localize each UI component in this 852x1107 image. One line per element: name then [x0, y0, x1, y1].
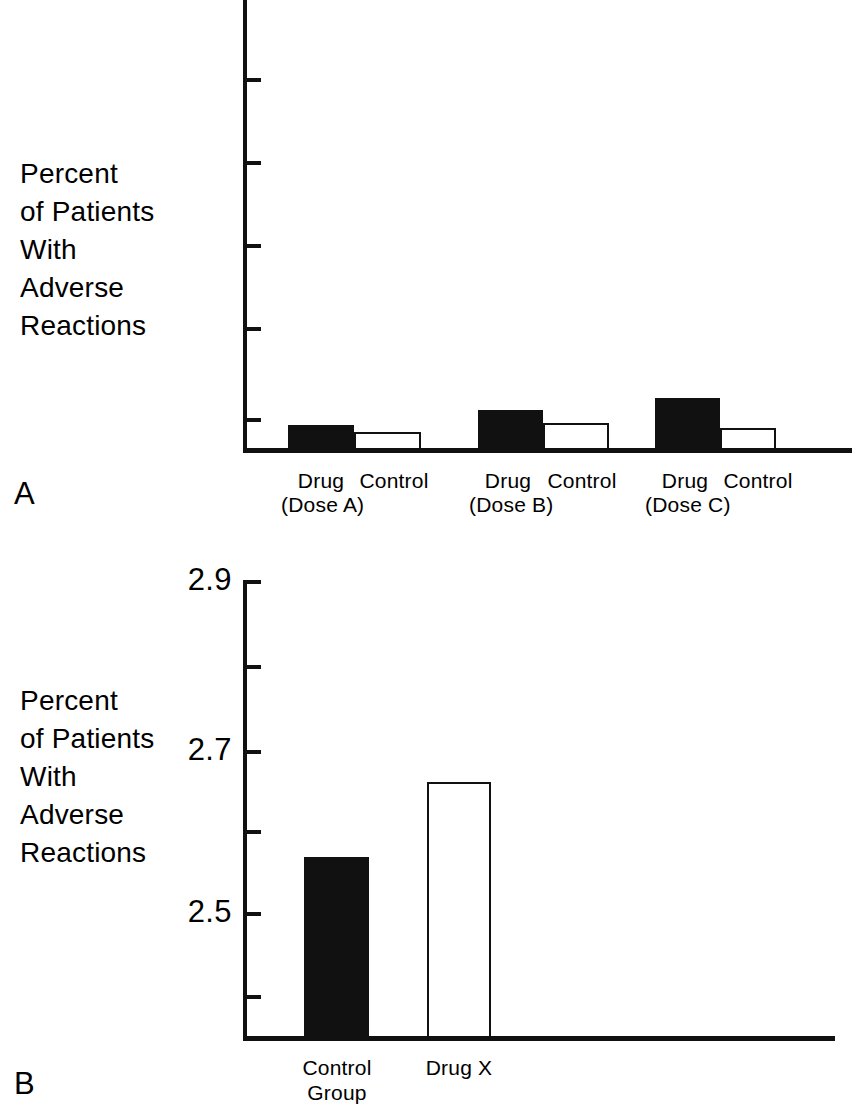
- panel-b-label-control-group: Control Group: [290, 1055, 384, 1105]
- panel-b: Percent of Patients With Adverse Reactio…: [0, 520, 852, 1107]
- panel-a-y-tick-4: [247, 161, 261, 165]
- panel-b-x-axis-line: [243, 1036, 835, 1041]
- panel-a-bar-control-dose-c: [720, 428, 776, 448]
- panel-a-y-tick-1: [247, 418, 261, 422]
- panel-a-y-tick-3: [247, 244, 261, 248]
- panel-b-bar-drug-x: [427, 782, 491, 1036]
- panel-a-letter: A: [14, 478, 35, 509]
- panel-a-label-drug-dose-c: Drug: [650, 468, 720, 493]
- panel-a-label-dose-a: (Dose A): [281, 492, 401, 517]
- panel-a-bar-control-dose-a: [354, 432, 421, 448]
- panel-a-bar-control-dose-b: [543, 423, 609, 448]
- panel-a-y-tick-2: [247, 327, 261, 331]
- panel-a-label-dose-c: (Dose C): [645, 492, 765, 517]
- panel-a-label-drug-dose-a: Drug: [286, 468, 356, 493]
- panel-a-bar-drug-dose-c: [655, 398, 720, 448]
- panel-a-x-axis-line: [243, 448, 852, 453]
- panel-b-y-tick-minor-2-8: [247, 665, 261, 669]
- panel-a-bar-drug-dose-b: [478, 410, 543, 448]
- panel-a-label-drug-dose-b: Drug: [473, 468, 543, 493]
- panel-a-y-axis-label: Percent of Patients With Adverse Reactio…: [20, 155, 220, 345]
- panel-a-y-axis-line: [243, 0, 247, 450]
- figure-root: Percent of Patients With Adverse Reactio…: [0, 0, 852, 1107]
- panel-a-bar-drug-dose-a: [288, 425, 354, 448]
- panel-b-y-tick-label-2-9: 2.9: [150, 564, 232, 595]
- panel-b-label-drug-x: Drug X: [412, 1055, 506, 1080]
- panel-b-y-tick-label-2-7: 2.7: [150, 734, 232, 765]
- panel-b-y-axis-line: [243, 580, 247, 1040]
- panel-b-y-tick-minor-2-4: [247, 995, 261, 999]
- panel-a-label-control-dose-c: Control: [719, 468, 797, 493]
- panel-a: Percent of Patients With Adverse Reactio…: [0, 0, 852, 520]
- panel-a-label-control-dose-a: Control: [355, 468, 433, 493]
- panel-b-bar-control-group: [304, 857, 369, 1036]
- panel-a-label-control-dose-b: Control: [543, 468, 621, 493]
- panel-a-y-tick-5: [247, 78, 261, 82]
- panel-a-label-dose-b: (Dose B): [469, 492, 589, 517]
- panel-b-y-tick-2-9: [247, 580, 261, 584]
- panel-b-y-tick-minor-2-6: [247, 830, 261, 834]
- panel-b-y-axis-label: Percent of Patients With Adverse Reactio…: [20, 682, 220, 872]
- panel-b-letter: B: [14, 1068, 35, 1099]
- panel-b-y-tick-label-2-5: 2.5: [150, 896, 232, 927]
- panel-b-y-tick-2-5: [247, 912, 261, 916]
- panel-b-y-tick-2-7: [247, 750, 261, 754]
